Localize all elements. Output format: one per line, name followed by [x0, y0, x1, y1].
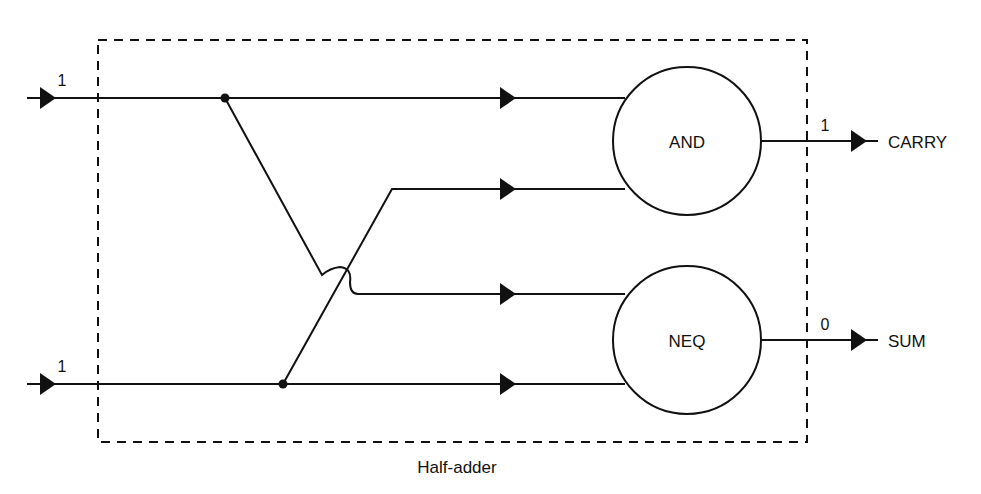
half-adder-diagram: AND NEQ 1 CARRY 0 SUM 1 1 Half-adder	[0, 0, 981, 494]
input-a-wire	[27, 87, 625, 109]
carry-arrow-icon	[851, 130, 867, 152]
sum-label: SUM	[888, 332, 926, 351]
and-input-2-arrow-icon	[500, 178, 516, 200]
neq-input-1-arrow-icon	[500, 283, 516, 305]
input-b-arrow-icon	[40, 373, 56, 395]
input-b-to-and-wire	[283, 189, 625, 384]
neq-input-2-arrow-icon	[500, 373, 516, 395]
diagram-caption: Half-adder	[417, 458, 497, 477]
sum-value: 0	[821, 316, 830, 333]
carry-output: 1 CARRY	[761, 117, 947, 152]
neq-gate-label: NEQ	[669, 332, 706, 351]
and-gate: AND	[613, 67, 761, 215]
and-input-1-arrow-icon	[500, 87, 516, 109]
input-a-arrow-icon	[40, 87, 56, 109]
input-a-value: 1	[58, 72, 67, 89]
carry-value: 1	[821, 117, 830, 134]
sum-output: 0 SUM	[761, 316, 926, 351]
input-a-to-neq-wire	[225, 98, 625, 294]
sum-arrow-icon	[851, 329, 867, 351]
input-b-value: 1	[58, 358, 67, 375]
neq-gate: NEQ	[613, 266, 761, 414]
and-gate-label: AND	[669, 133, 705, 152]
carry-label: CARRY	[888, 133, 947, 152]
input-b-wire	[27, 373, 625, 395]
